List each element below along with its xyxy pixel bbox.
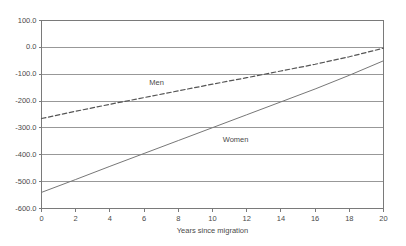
y-tick-label: -100.0: [15, 70, 36, 78]
y-tick-label: 0.0: [26, 43, 36, 51]
x-tick-label: 16: [300, 215, 330, 223]
x-tick-label: 14: [266, 215, 296, 223]
x-tick-label: 12: [232, 215, 262, 223]
y-tick-label: -600.0: [15, 205, 36, 213]
x-tick-label: 20: [369, 215, 399, 223]
x-tick-label: 6: [129, 215, 159, 223]
chart-plot-area: [0, 0, 406, 246]
x-tick-label: 4: [95, 215, 125, 223]
x-tick-label: 8: [163, 215, 193, 223]
y-tick-label: -400.0: [15, 151, 36, 159]
series-label-women: Women: [223, 136, 249, 144]
x-tick-label: 0: [27, 215, 57, 223]
chart-container: 100.00.0-100.0-200.0-300.0-400.0-500.0-6…: [0, 0, 406, 246]
series-label-men: Men: [149, 79, 164, 87]
x-tick-label: 2: [61, 215, 91, 223]
x-axis-title: Years since migration: [133, 227, 293, 235]
y-tick-label: -500.0: [15, 178, 36, 186]
x-tick-label: 18: [334, 215, 364, 223]
series-line-men: [42, 48, 384, 118]
y-tick-label: 100.0: [18, 17, 37, 25]
x-tick-label: 10: [198, 215, 228, 223]
y-tick-label: -200.0: [15, 97, 36, 105]
series-line-women: [42, 61, 384, 193]
y-tick-label: -300.0: [15, 124, 36, 132]
